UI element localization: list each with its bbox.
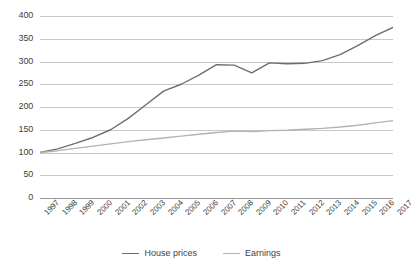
y-tick-label: 0 [0,193,33,202]
x-tick-label: 1999 [78,199,96,217]
chart-legend: House pricesEarnings [0,244,403,262]
series-line-earnings [40,121,393,153]
legend-label: Earnings [245,249,281,258]
series-layer [40,16,393,198]
x-tick-label: 2002 [131,199,149,217]
x-tick-label: 2012 [308,199,326,217]
x-tick-label: 2009 [255,199,273,217]
y-tick-label: 400 [0,11,33,20]
y-tick-label: 250 [0,79,33,88]
y-tick-label: 50 [0,170,33,179]
x-tick-label: 1997 [43,199,61,217]
x-tick-label: 2013 [325,199,343,217]
x-axis: 1997199819992000200120022003200420052006… [40,199,393,239]
x-tick-label: 2004 [167,199,185,217]
y-axis: 050100150200250300350400 [0,16,36,198]
x-tick-label: 2017 [396,199,414,217]
x-tick-label: 2010 [273,199,291,217]
x-tick-label: 2014 [343,199,361,217]
x-tick-label: 2001 [114,199,132,217]
y-tick-label: 100 [0,148,33,157]
x-tick-label: 2016 [378,199,396,217]
series-paths [40,16,393,198]
x-tick-label: 2006 [202,199,220,217]
plot-area [40,16,393,198]
y-tick-label: 150 [0,125,33,134]
x-tick-label: 2007 [220,199,238,217]
y-tick-label: 300 [0,57,33,66]
x-tick-label: 2003 [149,199,167,217]
legend-item-earnings[interactable]: Earnings [223,249,281,258]
x-tick-label: 1998 [61,199,79,217]
legend-label: House prices [144,249,197,258]
legend-line-icon [122,253,139,254]
x-tick-label: 2011 [290,199,308,217]
legend-item-house-prices[interactable]: House prices [122,249,197,258]
x-tick-label: 2008 [237,199,255,217]
series-line-house-prices [40,27,393,152]
x-tick-label: 2005 [184,199,202,217]
x-tick-label: 2015 [361,199,379,217]
y-tick-label: 350 [0,34,33,43]
legend-line-icon [223,253,240,254]
x-tick-label: 2000 [96,199,114,217]
y-tick-label: 200 [0,102,33,111]
